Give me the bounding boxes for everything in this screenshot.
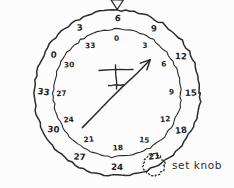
outer-tick-3: 3: [76, 22, 83, 32]
inner-tick-12: 12: [160, 114, 171, 124]
inner-tick-30: 30: [64, 60, 75, 69]
outer-tick-9: 9: [151, 23, 157, 33]
triangle-index-icon: [111, 0, 124, 10]
outer-tick-27: 27: [73, 152, 85, 163]
set-knob-label: set knob: [172, 159, 222, 171]
inner-tick-3: 3: [142, 41, 148, 50]
outer-tick-21: 21: [148, 151, 161, 162]
inner-tick-0: 0: [114, 34, 120, 43]
inner-tick-15: 15: [139, 135, 150, 145]
inner-tick-6: 6: [161, 60, 166, 69]
outer-tick-15: 15: [185, 88, 197, 99]
outer-tick-12: 12: [175, 51, 187, 62]
inner-tick-27: 27: [56, 89, 67, 99]
inner-tick-21: 21: [83, 134, 94, 144]
inner-tick-24: 24: [63, 115, 74, 125]
outer-tick-0: 0: [50, 50, 57, 60]
outer-tick-24: 24: [111, 162, 123, 172]
instrument-sketch-canvas: 69121518212427303303 0369121518212427303…: [0, 0, 234, 188]
outer-tick-33: 33: [37, 86, 50, 97]
inner-tick-33: 33: [85, 41, 95, 50]
dial-diagram: 69121518212427303303 0369121518212427303…: [0, 0, 234, 188]
aircraft-symbol-icon: [99, 65, 133, 89]
outer-tick-6: 6: [114, 13, 121, 24]
inner-tick-9: 9: [169, 87, 175, 96]
outer-tick-30: 30: [47, 124, 60, 135]
outer-tick-18: 18: [174, 125, 187, 136]
inner-tick-18: 18: [113, 143, 124, 152]
